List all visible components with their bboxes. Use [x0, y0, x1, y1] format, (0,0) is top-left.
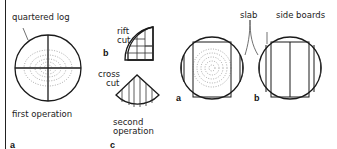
log-b-figure [258, 37, 321, 99]
slab-leader-b [250, 20, 258, 55]
quartered-log-figure [15, 28, 81, 101]
label-operation: operation [113, 127, 154, 136]
leader-line [23, 28, 28, 40]
label-side-boards: side boards [276, 11, 325, 20]
log-a-figure [180, 37, 243, 99]
label-cross-cut: cut [106, 79, 119, 88]
label-quartered-log: quartered log [12, 13, 70, 22]
sawing-diagram [0, 0, 337, 149]
slab-leader-a [245, 20, 250, 55]
cross-cut-figure [116, 75, 159, 107]
tag-a-left: a [10, 140, 15, 149]
label-first-operation: first operation [12, 110, 72, 119]
tag-b-left: b [103, 48, 109, 58]
label-rift-cut: cut [117, 36, 130, 45]
tag-c-left: c [110, 140, 115, 149]
tag-a-right: a [176, 93, 181, 103]
tag-b-right: b [254, 93, 260, 103]
label-slab: slab [240, 11, 257, 20]
